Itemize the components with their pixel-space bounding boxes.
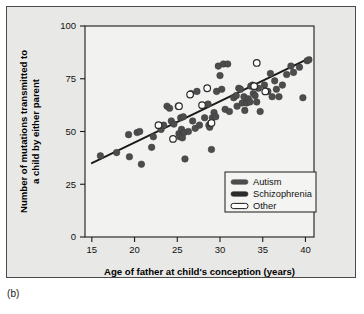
data-point — [300, 94, 307, 101]
data-point-other — [176, 103, 183, 110]
legend-swatch — [231, 192, 248, 197]
data-point — [166, 105, 173, 112]
y-axis-tick-label: 75 — [65, 73, 76, 84]
x-axis-tick-label: 35 — [257, 244, 268, 255]
data-point — [253, 99, 260, 106]
data-point — [212, 113, 219, 120]
y-axis-tick-label: 25 — [65, 179, 76, 190]
legend-swatch-other — [231, 203, 248, 208]
legend-label: Schizophrenia — [253, 189, 313, 199]
x-axis-tick-label: 30 — [215, 244, 226, 255]
data-point — [113, 149, 120, 156]
data-point — [233, 92, 240, 99]
data-point — [296, 64, 303, 71]
x-axis-title: Age of father at child's conception (yea… — [104, 266, 295, 277]
data-point-other — [204, 85, 211, 92]
data-point — [136, 128, 143, 135]
data-point — [185, 128, 192, 135]
x-axis-tick-label: 25 — [172, 244, 183, 255]
data-point — [125, 131, 132, 138]
data-point — [217, 72, 224, 79]
data-point — [224, 61, 231, 68]
y-axis-title-line: Number of mutations transmitted to — [18, 50, 29, 213]
data-point-other — [262, 88, 269, 95]
data-point-other — [253, 60, 260, 67]
data-point — [182, 156, 189, 163]
data-point — [283, 71, 290, 78]
data-point — [247, 99, 254, 106]
data-point — [189, 118, 196, 125]
data-point — [276, 93, 283, 100]
data-point — [150, 133, 157, 140]
legend-swatch — [231, 180, 248, 185]
data-point-other — [251, 83, 258, 90]
x-axis-tick-label: 15 — [87, 244, 98, 255]
data-point-other — [199, 102, 206, 109]
data-point-other — [170, 136, 177, 143]
data-point — [194, 88, 201, 95]
x-axis-tick-label: 40 — [300, 244, 311, 255]
data-point — [126, 154, 133, 161]
y-axis-title-line: a child by either parent — [30, 78, 41, 184]
plot-svg: 1520253035400255075100Age of father at c… — [7, 7, 357, 279]
data-point — [196, 122, 203, 129]
data-point — [252, 92, 259, 99]
data-point — [201, 114, 208, 121]
data-point — [269, 93, 276, 100]
data-point — [226, 108, 233, 115]
data-point — [306, 56, 313, 63]
data-point — [208, 146, 215, 153]
data-point — [290, 69, 297, 76]
data-point — [171, 121, 178, 128]
y-axis-tick-label: 100 — [60, 20, 76, 31]
figure-panel: 1520253035400255075100Age of father at c… — [6, 6, 356, 278]
data-point — [97, 152, 104, 159]
data-point — [138, 161, 145, 168]
data-point — [261, 82, 268, 89]
legend-label: Other — [253, 201, 276, 211]
data-point — [288, 63, 295, 70]
figure-caption-label: (b) — [7, 288, 20, 299]
data-point — [279, 82, 286, 89]
data-point — [273, 86, 280, 93]
data-point — [237, 86, 244, 93]
data-point — [218, 86, 225, 93]
x-axis-tick-label: 20 — [129, 244, 140, 255]
data-point — [267, 70, 274, 77]
data-point — [241, 107, 248, 114]
data-point-other — [208, 120, 215, 127]
data-point-other — [187, 91, 194, 98]
data-point-other — [155, 122, 162, 129]
data-point — [180, 113, 187, 120]
data-point — [148, 144, 155, 151]
data-point — [271, 78, 278, 85]
scatter-plot: 1520253035400255075100Age of father at c… — [7, 7, 357, 279]
legend-label: Autism — [253, 177, 282, 187]
y-axis-tick-label: 50 — [65, 126, 76, 137]
y-axis-tick-label: 0 — [71, 231, 76, 242]
data-point — [257, 108, 264, 115]
figure-container: 1520253035400255075100Age of father at c… — [0, 0, 364, 314]
